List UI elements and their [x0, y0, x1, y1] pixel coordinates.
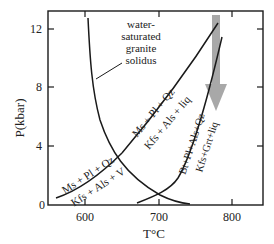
svg-text:water-: water- — [127, 18, 155, 30]
x-tick-600: 600 — [76, 210, 94, 224]
y-tick-4: 4 — [36, 139, 42, 153]
svg-text:saturated: saturated — [121, 30, 161, 42]
y-tick-12: 12 — [30, 22, 42, 36]
x-tick-700: 700 — [150, 210, 168, 224]
solidus-label: water- saturated granite solidus — [121, 18, 161, 66]
phase-diagram: 12 8 4 0 600 700 800 T°C P(kbar) water- … — [0, 0, 274, 244]
svg-text:granite: granite — [126, 42, 157, 54]
svg-text:solidus: solidus — [125, 54, 156, 66]
y-tick-0: 0 — [39, 198, 45, 212]
y-axis-label: P(kbar) — [12, 99, 27, 138]
y-tick-8: 8 — [36, 80, 42, 94]
x-tick-800: 800 — [223, 210, 241, 224]
x-axis-label: T°C — [143, 226, 165, 241]
solidus-leader-line — [96, 63, 122, 79]
